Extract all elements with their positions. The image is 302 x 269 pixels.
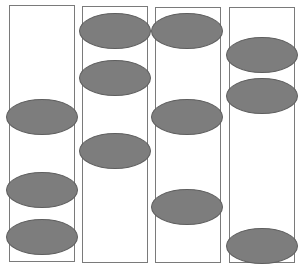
ellipse-2-1 [79,13,151,49]
ellipse-4-3 [226,228,298,264]
ellipse-3-2 [151,99,223,135]
ellipse-3-1 [151,13,223,49]
ellipse-4-1 [226,37,298,73]
ellipse-2-2 [79,60,151,96]
ellipse-3-3 [151,189,223,225]
ellipse-4-2 [226,78,298,114]
ellipse-1-2 [6,172,78,208]
ellipse-2-3 [79,133,151,169]
ellipse-1-3 [6,219,78,255]
ellipse-1-1 [6,99,78,135]
